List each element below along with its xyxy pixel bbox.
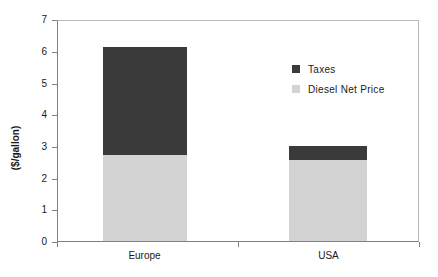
bar-segment-usa-taxes[interactable] [289, 146, 367, 160]
legend-item-diesel-net-price[interactable]: Diesel Net Price [292, 79, 385, 99]
x-axis-label-usa: USA [291, 250, 366, 261]
y-axis-tick-label: 0 [41, 235, 47, 248]
y-axis-tick-label: 4 [41, 108, 47, 121]
y-axis-tick-label: 3 [41, 140, 47, 153]
plot-area: Taxes Diesel Net Price [57, 20, 419, 242]
y-axis-tick-label: 7 [41, 13, 47, 26]
y-axis-tick-label: 5 [41, 77, 47, 90]
bar-segment-europe-taxes[interactable] [103, 47, 187, 155]
bar-group-europe[interactable] [103, 19, 187, 241]
legend-swatch-icon [292, 85, 300, 93]
x-axis-tick-mark [57, 242, 58, 247]
y-axis-tick-label: 2 [41, 172, 47, 185]
bar-segment-europe-net-price[interactable] [103, 155, 187, 241]
x-axis-tick-mark [419, 242, 420, 247]
x-axis-label-europe: Europe [107, 250, 182, 261]
legend-item-taxes[interactable]: Taxes [292, 59, 385, 79]
legend: Taxes Diesel Net Price [292, 59, 385, 99]
bar-group-usa[interactable] [289, 19, 367, 241]
chart-container: ($/gallon) 0 1 2 3 4 5 6 7 [0, 0, 438, 277]
bar-segment-usa-net-price[interactable] [289, 160, 367, 241]
legend-label: Taxes [308, 64, 336, 75]
x-axis-tick-mark [238, 242, 239, 247]
legend-swatch-icon [292, 65, 300, 73]
legend-label: Diesel Net Price [308, 84, 385, 95]
y-axis-tick-label: 1 [41, 203, 47, 216]
y-axis-tick-label: 6 [41, 45, 47, 58]
